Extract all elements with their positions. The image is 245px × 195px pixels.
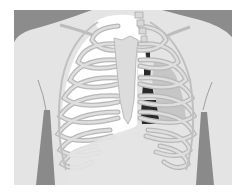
chest-illustration	[0, 0, 245, 195]
